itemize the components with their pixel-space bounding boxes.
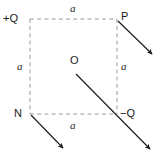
dashed-square-edges bbox=[30, 19, 117, 114]
side-length-label-right: a bbox=[121, 61, 127, 72]
field-vector-at-P-arrow bbox=[118, 21, 152, 54]
field-vector-at-N-arrow bbox=[31, 115, 63, 148]
side-length-label-top: a bbox=[70, 3, 76, 14]
physics-diagram: +Q P N −Q O a a a a bbox=[0, 0, 163, 158]
vertex-label-positive-q: +Q bbox=[3, 13, 18, 24]
side-length-label-bottom: a bbox=[70, 120, 76, 131]
vertex-label-p: P bbox=[121, 11, 128, 22]
diagram-canvas bbox=[0, 0, 163, 158]
vertex-label-negative-q: −Q bbox=[120, 108, 135, 119]
field-vector-arrows bbox=[31, 21, 152, 149]
side-length-label-left: a bbox=[17, 61, 23, 72]
field-vector-from-O-arrow bbox=[76, 74, 150, 149]
vertex-label-n: N bbox=[14, 108, 22, 119]
center-point-label-o: O bbox=[70, 55, 79, 66]
